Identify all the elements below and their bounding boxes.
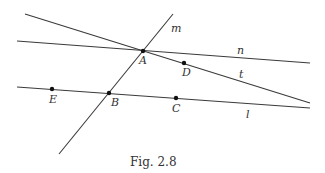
point-B [107,91,111,95]
figure-caption: Fig. 2.8 [130,155,177,169]
line-label-l: l [246,108,250,121]
line-l [17,87,310,108]
point-D [182,61,186,65]
point-label-E: E [48,93,57,106]
point-label-B: B [110,96,119,109]
line-t [25,14,310,103]
lines-group [17,14,310,154]
point-label-C: C [172,102,181,115]
geometry-figure: m n t l A D E B C Fig. 2.8 [0,0,325,173]
line-label-m: m [171,22,181,35]
point-label-A: A [138,54,147,67]
points-group [50,49,186,100]
point-label-D: D [181,66,191,79]
point-A [141,49,145,53]
point-E [50,87,54,91]
line-label-n: n [237,44,244,57]
line-n [17,41,310,63]
line-m [59,14,173,154]
line-label-t: t [239,68,244,81]
point-C [174,96,178,100]
point-labels-group: A D E B C [48,54,191,115]
